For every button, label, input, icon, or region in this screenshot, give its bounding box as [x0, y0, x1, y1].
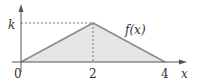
- x-axis-label: x: [181, 67, 188, 81]
- triangular-density-diagram: k 0 2 4 x f(x): [0, 0, 197, 83]
- y-tick-label-k: k: [8, 18, 15, 32]
- x-tick-label-4: 4: [161, 67, 169, 81]
- x-tick-label-2: 2: [89, 67, 97, 81]
- y-axis-arrow-icon: [19, 4, 24, 12]
- x-tick-label-0: 0: [14, 67, 22, 81]
- x-axis-arrow-icon: [179, 60, 187, 65]
- function-label: f(x): [124, 23, 146, 37]
